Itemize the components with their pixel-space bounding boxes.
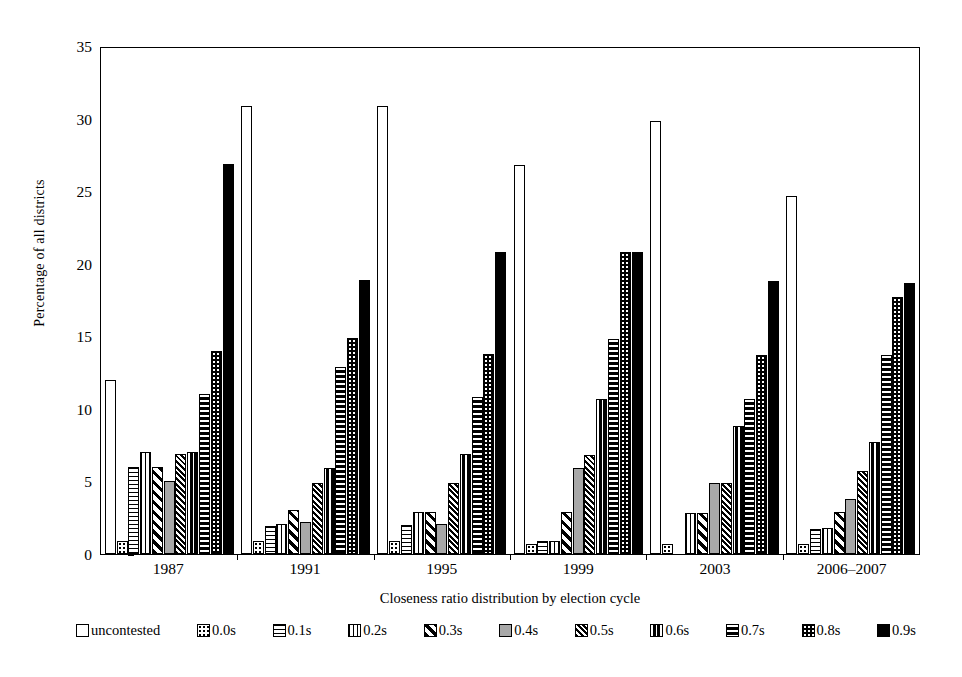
bar <box>347 338 358 554</box>
bar <box>537 541 548 554</box>
bar <box>721 483 732 554</box>
bar <box>526 544 537 554</box>
legend-label: uncontested <box>91 622 160 639</box>
bar <box>744 399 755 554</box>
bar <box>199 394 210 554</box>
legend-label: 0.6s <box>665 622 689 639</box>
bar <box>810 529 821 554</box>
x-tick-label: 2006–2007 <box>783 560 920 586</box>
bar <box>401 525 412 554</box>
legend-item: 0.5s <box>575 622 614 639</box>
bar <box>798 544 809 554</box>
bar <box>904 283 915 554</box>
legend-item: 0.3s <box>424 622 463 639</box>
bar <box>495 252 506 554</box>
y-tick-mark <box>128 555 134 556</box>
legend-label: 0.1s <box>288 622 312 639</box>
legend-item: uncontested <box>76 622 160 639</box>
y-tick-label: 5 <box>34 475 92 491</box>
legend-item: 0.7s <box>726 622 765 639</box>
y-tick-label: 15 <box>34 330 92 346</box>
plot-area <box>100 47 920 555</box>
bar <box>140 452 151 554</box>
bar <box>483 354 494 554</box>
bar <box>881 355 892 554</box>
bar <box>436 524 447 554</box>
legend-label: 0.8s <box>817 622 841 639</box>
legend-swatch-icon <box>76 624 89 637</box>
y-axis-ticks: 05101520253035 <box>34 0 92 677</box>
bar <box>265 526 276 554</box>
bar <box>768 281 779 554</box>
x-axis-ticks: 198719911995199920032006–2007 <box>100 560 920 586</box>
legend-swatch-icon <box>197 624 210 637</box>
bar <box>845 499 856 554</box>
bar <box>756 355 767 554</box>
bar <box>276 524 287 554</box>
legend-item: 0.2s <box>348 622 387 639</box>
y-tick-label: 35 <box>34 39 92 55</box>
legend-swatch-icon <box>273 624 286 637</box>
chart-figure: Percentage of all districts 051015202530… <box>0 0 962 677</box>
legend-label: 0.5s <box>590 622 614 639</box>
bar <box>549 541 560 554</box>
legend-swatch-icon <box>575 624 588 637</box>
bar <box>892 297 903 554</box>
bar <box>662 544 673 554</box>
bar <box>733 426 744 554</box>
bar <box>632 252 643 554</box>
bar <box>514 165 525 554</box>
bar <box>117 541 128 554</box>
x-tick-label: 1991 <box>237 560 374 586</box>
bar-group <box>646 48 782 554</box>
legend-label: 0.4s <box>514 622 538 639</box>
bar <box>584 455 595 554</box>
bar <box>448 483 459 554</box>
x-tick-label: 1995 <box>373 560 510 586</box>
x-tick-label: 2003 <box>647 560 784 586</box>
bar <box>413 512 424 554</box>
bar <box>561 512 572 554</box>
bar-group <box>783 48 919 554</box>
y-tick-label: 25 <box>34 184 92 200</box>
bar-group <box>510 48 646 554</box>
bar <box>312 483 323 554</box>
bar <box>152 467 163 554</box>
bar <box>324 468 335 554</box>
bar <box>211 351 222 554</box>
bar <box>460 454 471 554</box>
legend-swatch-icon <box>424 624 437 637</box>
y-tick-label: 0 <box>34 547 92 563</box>
bar <box>377 106 388 554</box>
bar <box>389 541 400 554</box>
legend-item: 0.8s <box>802 622 841 639</box>
bar-groups <box>101 48 919 554</box>
bar <box>359 280 370 554</box>
bar <box>786 196 797 555</box>
legend-swatch-icon <box>802 624 815 637</box>
bar <box>241 106 252 554</box>
chart-legend: uncontested0.0s0.1s0.2s0.3s0.4s0.5s0.6s0… <box>76 622 916 639</box>
bar <box>288 510 299 554</box>
legend-item: 0.0s <box>197 622 236 639</box>
bar <box>105 380 116 554</box>
bar <box>425 512 436 554</box>
bar <box>596 399 607 554</box>
bar <box>709 483 720 554</box>
bar-group <box>374 48 510 554</box>
bar <box>128 467 139 554</box>
x-axis-label: Closeness ratio distribution by election… <box>100 590 920 607</box>
bar <box>608 339 619 554</box>
bar <box>335 367 346 554</box>
bar <box>175 454 186 554</box>
legend-label: 0.3s <box>439 622 463 639</box>
bar <box>685 513 696 554</box>
bar <box>573 468 584 554</box>
bar <box>857 471 868 554</box>
legend-swatch-icon <box>650 624 663 637</box>
bar <box>697 513 708 554</box>
bar-group <box>101 48 237 554</box>
bar-group <box>237 48 373 554</box>
bar <box>472 397 483 554</box>
legend-swatch-icon <box>726 624 739 637</box>
